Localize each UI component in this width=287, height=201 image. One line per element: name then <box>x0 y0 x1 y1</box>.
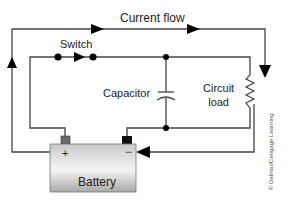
arrow-up-icon <box>7 57 17 68</box>
switch-icon <box>54 52 96 62</box>
arrow-down-icon <box>259 65 271 78</box>
circuit-load-label: Circuit load <box>203 81 234 109</box>
arrow-right-icon <box>91 24 104 34</box>
arrow-left-icon <box>136 146 150 158</box>
circuit-diagram <box>0 0 287 201</box>
negative-terminal-label: − <box>125 145 132 159</box>
circuit-load-line2: load <box>203 95 234 109</box>
switch-label: Switch <box>60 38 92 50</box>
resistor-icon <box>246 75 254 108</box>
copyright-credit: © Delmar/Cengage Learning <box>268 114 274 190</box>
arrow-right-icon-2 <box>187 24 200 34</box>
current-flow-label: Current flow <box>120 11 185 25</box>
junction-top-icon <box>163 54 169 60</box>
positive-terminal-label: + <box>62 147 68 159</box>
junction-bottom-icon <box>163 125 169 131</box>
positive-post <box>61 136 70 144</box>
battery-label: Battery <box>78 175 116 189</box>
circuit-load-line1: Circuit <box>203 81 234 95</box>
negative-post <box>122 136 132 144</box>
capacitor-label: Capacitor <box>103 87 150 99</box>
